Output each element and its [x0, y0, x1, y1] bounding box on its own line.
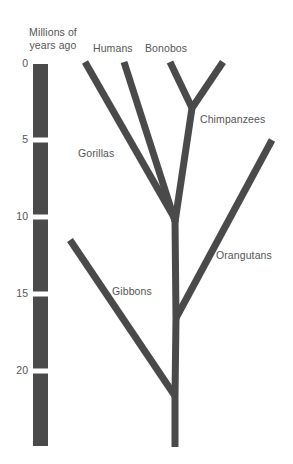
axis-tick-gap-10	[33, 215, 48, 220]
axis-tick-label-20: 20	[2, 364, 28, 376]
branch-orangutan-to-gorilla-stem	[175, 219, 176, 318]
tree-diagram	[0, 0, 293, 464]
axis-bar-body	[33, 64, 48, 446]
taxon-label-humans: Humans	[93, 42, 133, 54]
phylogenetic-tree-figure: Millions of years ago 0 5 10 15 20 Human…	[0, 0, 293, 464]
axis-title: Millions of years ago	[14, 26, 92, 51]
branch-gibbon-to-orangutan-stem	[175, 318, 176, 396]
axis-tick-gap-20	[33, 369, 48, 374]
axis-tick-label-10: 10	[2, 210, 28, 222]
branch-orangutans	[176, 140, 272, 318]
taxon-label-gorillas: Gorillas	[78, 147, 114, 159]
axis-title-line-2: years ago	[14, 39, 92, 52]
taxon-label-chimpanzees: Chimpanzees	[200, 113, 265, 125]
branch-bonobos	[170, 62, 192, 108]
axis-tick-label-0: 0	[2, 57, 28, 69]
axis-tick-label-15: 15	[2, 287, 28, 299]
axis-tick-gap-15	[33, 292, 48, 297]
branch-pan-stem	[175, 108, 192, 222]
axis-title-line-1: Millions of	[14, 26, 92, 39]
axis-tick-label-5: 5	[2, 133, 28, 145]
time-axis-bar	[33, 64, 48, 446]
taxon-label-bonobos: Bonobos	[145, 42, 187, 54]
taxon-label-gibbons: Gibbons	[112, 285, 152, 297]
branch-chimpanzees	[192, 62, 223, 108]
branch-gibbons	[70, 240, 175, 396]
axis-tick-gap-5	[33, 138, 48, 143]
taxon-label-orangutans: Orangutans	[216, 249, 272, 261]
